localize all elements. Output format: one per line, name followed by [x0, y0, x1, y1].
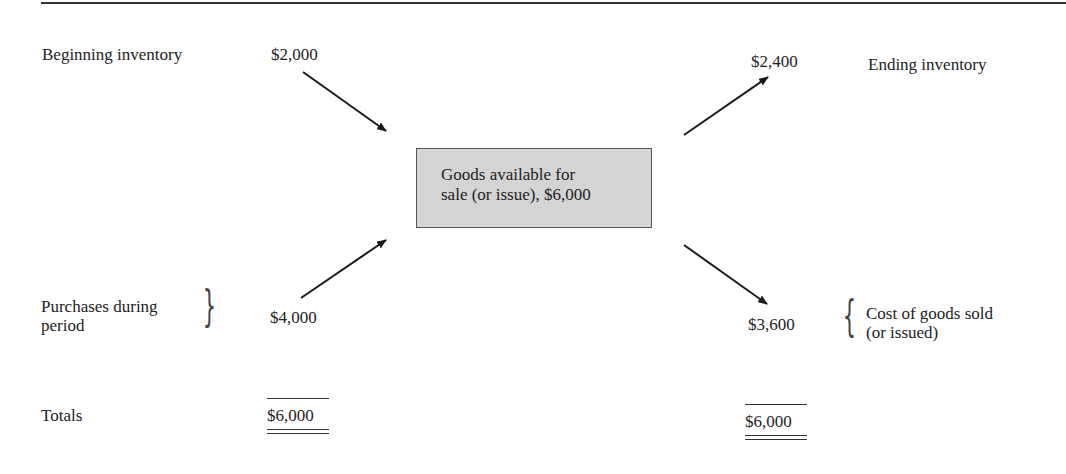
- arrow-goods-to-cogs-icon: [684, 245, 767, 304]
- arrow-goods-to-ending-icon: [684, 77, 768, 135]
- arrow-beginning-to-goods-icon: [303, 72, 386, 131]
- flow-arrows: [0, 0, 1066, 474]
- arrow-purchases-to-goods-icon: [301, 240, 386, 298]
